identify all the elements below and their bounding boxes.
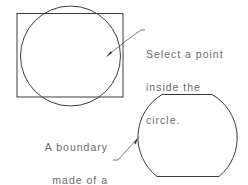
- callout-line: circle.: [146, 115, 224, 126]
- callout-line: made of a: [41, 175, 108, 185]
- callout-line: A boundary: [41, 142, 108, 153]
- callout-line: Select a point: [146, 49, 224, 60]
- circle: [21, 6, 121, 106]
- callout-text-boundary-created: A boundary made of a polyline is created…: [41, 120, 108, 185]
- callout-text-select-point: Select a point inside the circle.: [146, 27, 224, 137]
- leader-arrow-bottom: [113, 137, 138, 160]
- leader-arrow-top: [106, 30, 145, 57]
- callout-line: inside the: [146, 82, 224, 93]
- rectangle: [17, 14, 123, 98]
